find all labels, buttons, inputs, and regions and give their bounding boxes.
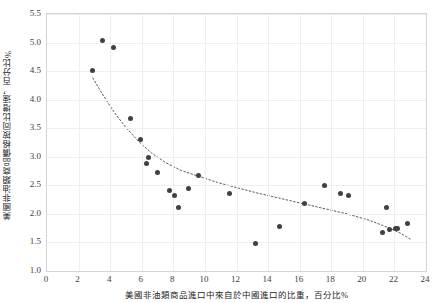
- y-tick-label: 3.5: [30, 122, 41, 132]
- x-tick-label: 6: [139, 274, 144, 284]
- x-tick-label: 14: [263, 274, 272, 284]
- x-tick-label: 10: [199, 274, 208, 284]
- gridline-vertical: [394, 14, 395, 271]
- data-point: [380, 230, 385, 235]
- data-point: [395, 226, 400, 231]
- x-tick-label: 16: [294, 274, 303, 284]
- data-point: [138, 137, 143, 142]
- gridline-horizontal: [47, 100, 426, 101]
- gridline-vertical: [142, 14, 143, 271]
- data-point: [346, 193, 351, 198]
- y-tick-label: 3.0: [30, 151, 41, 161]
- gridline-vertical: [268, 14, 269, 271]
- x-tick-label: 20: [357, 274, 366, 284]
- gridline-horizontal: [47, 185, 426, 186]
- x-tick-label: 2: [75, 274, 80, 284]
- x-tick-label: 4: [107, 274, 112, 284]
- data-point: [146, 155, 151, 160]
- x-axis-title: 美國非油類商品進口中來自於中國進口的比重，百分比%: [46, 288, 427, 300]
- data-point: [144, 161, 149, 166]
- gridline-horizontal: [47, 214, 426, 215]
- x-tick-label: 12: [231, 274, 240, 284]
- x-tick-label: 24: [421, 274, 430, 284]
- gridline-horizontal: [47, 14, 426, 15]
- gridline-horizontal: [47, 71, 426, 72]
- data-point: [405, 221, 410, 226]
- y-tick-label: 4.0: [30, 94, 41, 104]
- x-tick-label: 22: [389, 274, 398, 284]
- y-axis-tick-labels: 1.01.52.02.53.03.54.04.55.05.5: [14, 0, 44, 272]
- data-point: [302, 201, 307, 206]
- plot-area: [46, 13, 427, 272]
- y-tick-label: 1.0: [30, 265, 41, 275]
- gridline-vertical: [79, 14, 80, 271]
- data-point: [90, 68, 95, 73]
- x-tick-label: 0: [44, 274, 49, 284]
- gridline-vertical: [237, 14, 238, 271]
- x-tick-label: 8: [170, 274, 175, 284]
- data-point: [111, 45, 116, 50]
- y-tick-label: 2.0: [30, 208, 41, 218]
- gridline-vertical: [173, 14, 174, 271]
- gridline-horizontal: [47, 128, 426, 129]
- gridline-vertical: [110, 14, 111, 271]
- gridline-vertical: [363, 14, 364, 271]
- y-axis-title-label: 美國非油類商品價格按同比增速，百分比%: [4, 51, 13, 220]
- y-tick-label: 1.5: [30, 236, 41, 246]
- gridline-vertical: [205, 14, 206, 271]
- y-tick-label: 5.5: [30, 8, 41, 18]
- gridline-vertical: [426, 14, 427, 271]
- gridline-vertical: [300, 14, 301, 271]
- data-point: [176, 205, 181, 210]
- x-axis-tick-labels: 024681012141618202224: [46, 274, 427, 288]
- gridline-horizontal: [47, 157, 426, 158]
- x-tick-label: 18: [326, 274, 335, 284]
- scatter-chart: 美國非油類商品價格按同比增速，百分比% 1.01.52.02.53.03.54.…: [0, 0, 437, 303]
- gridline-horizontal: [47, 43, 426, 44]
- y-tick-label: 5.0: [30, 37, 41, 47]
- gridline-horizontal: [47, 242, 426, 243]
- data-point: [384, 205, 389, 210]
- data-point: [186, 186, 191, 191]
- gridline-vertical: [331, 14, 332, 271]
- y-tick-label: 4.5: [30, 65, 41, 75]
- y-tick-label: 2.5: [30, 179, 41, 189]
